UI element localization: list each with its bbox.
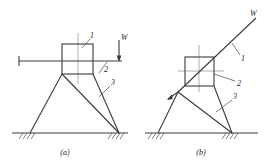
- label-part2-a: 2: [104, 65, 108, 74]
- label-part1-a: 1: [90, 31, 94, 40]
- caption-a: (a): [60, 148, 70, 157]
- label-part3-a: 3: [110, 78, 115, 87]
- caption-b: (b): [196, 148, 206, 157]
- label-part2-b: 2: [237, 79, 241, 88]
- label-part1-b: 1: [241, 54, 245, 63]
- figure-canvas: 1 2 3 W (a) 1 2 3 W (b): [0, 0, 270, 166]
- panel-labels: 1 2 3 W (a) 1 2 3 W (b): [0, 0, 270, 166]
- label-part3-b: 3: [232, 92, 237, 101]
- label-load-b: W: [250, 9, 258, 18]
- label-load-a: W: [121, 33, 129, 42]
